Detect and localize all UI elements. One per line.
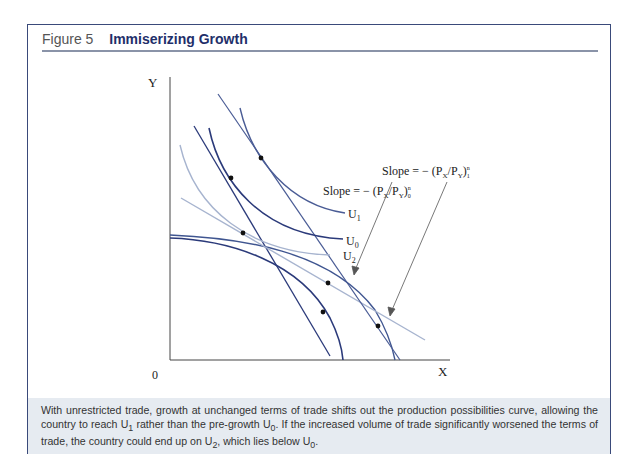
slope-annotation-post: Slope = − (PX/PY)1n [382,164,470,180]
indifference-curve-u2 [180,145,330,255]
x-axis-label: X [438,364,448,379]
ppf-pre-growth [170,238,343,360]
y-axis-label: Y [148,75,158,90]
origin-label: 0 [152,368,158,382]
ppf-post-growth [170,235,395,360]
annotation-arrows [352,182,447,316]
slope-annotation-pre: Slope = − (PX/PY)0n [323,184,411,200]
u1-label: U1 [348,207,361,223]
u0-label: U0 [346,234,359,250]
axes [170,77,450,360]
u2-label: U2 [343,249,356,265]
price-line-worsened-tot [181,198,425,340]
